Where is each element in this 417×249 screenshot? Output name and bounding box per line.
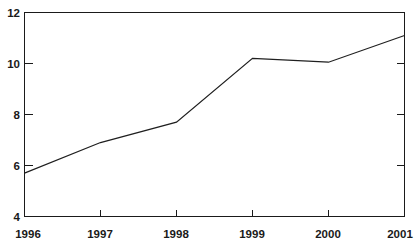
x-label-2000: 2000 [315,228,341,240]
x-label-1998: 1998 [163,228,189,240]
line-chart: 12 10 8 6 4 1996 1997 1998 1999 2000 200… [0,0,417,249]
y-label-4: 4 [14,211,21,223]
x-label-2001: 2001 [387,228,413,240]
y-label-6: 6 [14,160,20,172]
chart-canvas: 12 10 8 6 4 1996 1997 1998 1999 2000 200… [0,0,417,249]
y-label-12: 12 [7,7,20,19]
x-label-1999: 1999 [239,228,265,240]
x-label-1996: 1996 [15,228,41,240]
x-label-1997: 1997 [87,228,113,240]
y-label-10: 10 [7,58,20,70]
y-label-8: 8 [14,109,21,121]
chart-background [0,0,417,249]
